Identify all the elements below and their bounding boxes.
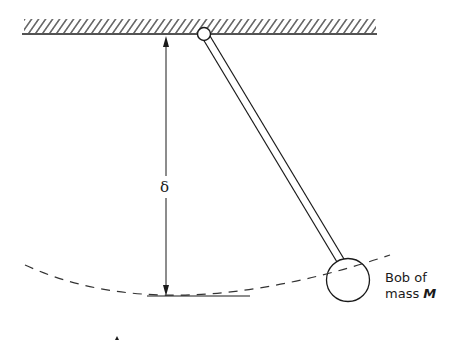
delta-dimension-arrow — [163, 36, 169, 296]
bob-circle — [327, 259, 370, 302]
bob-label: Bob of mass M — [385, 270, 436, 302]
bob-label-line2: mass M — [385, 286, 436, 302]
mass-symbol: M — [423, 286, 436, 301]
bob-label-line1: Bob of — [385, 270, 436, 286]
stray-mark — [115, 336, 119, 340]
bob-label-mass-text: mass — [385, 286, 423, 301]
delta-label: δ — [160, 176, 169, 198]
pivot-circle — [198, 28, 211, 41]
pendulum-rod — [203, 36, 344, 262]
